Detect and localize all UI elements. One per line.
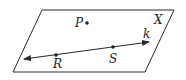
line-k [24,42,149,59]
geometry-diagram: P R S X k [0,0,186,80]
label-s: S [109,52,117,66]
label-r: R [52,57,62,71]
label-p: P [74,16,84,30]
plane-x [13,10,174,72]
point-s [111,45,115,49]
point-p [85,21,89,25]
label-x: X [153,13,163,27]
label-k: k [143,27,150,41]
